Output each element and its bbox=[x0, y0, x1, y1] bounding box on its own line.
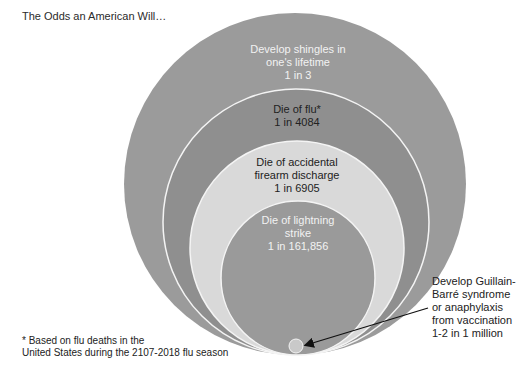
flu-odds: 1 in 4084 bbox=[273, 116, 321, 129]
firearm-label: Die of accidental firearm discharge 1 in… bbox=[255, 156, 340, 195]
shingles-label-line: Develop shingles in bbox=[250, 43, 345, 56]
shingles-label-line: one's lifetime bbox=[250, 56, 345, 69]
lightning-label: Die of lightning strike 1 in 161,856 bbox=[262, 214, 335, 253]
callout-line: from vaccination bbox=[432, 314, 516, 327]
firearm-odds: 1 in 6905 bbox=[255, 182, 340, 195]
shingles-label: Develop shingles in one's lifetime 1 in … bbox=[250, 43, 345, 82]
footnote: * Based on flu deaths in the United Stat… bbox=[22, 335, 228, 359]
flu-label: Die of flu* 1 in 4084 bbox=[273, 103, 321, 129]
vaccine-risk-circle bbox=[289, 339, 303, 353]
vaccine-callout: Develop Guillain- Barré syndrome or anap… bbox=[432, 275, 516, 340]
callout-line: or anaphylaxis bbox=[432, 301, 516, 314]
footnote-line: * Based on flu deaths in the bbox=[22, 335, 228, 347]
lightning-label-line: strike bbox=[262, 227, 335, 240]
firearm-label-line: firearm discharge bbox=[255, 169, 340, 182]
callout-odds: 1-2 in 1 million bbox=[432, 327, 516, 340]
flu-label-line: Die of flu* bbox=[273, 103, 321, 116]
lightning-odds: 1 in 161,856 bbox=[262, 240, 335, 253]
callout-line: Develop Guillain- bbox=[432, 275, 516, 288]
footnote-line: United States during the 2107-2018 flu s… bbox=[22, 347, 228, 359]
callout-line: Barré syndrome bbox=[432, 288, 516, 301]
lightning-label-line: Die of lightning bbox=[262, 214, 335, 227]
shingles-odds: 1 in 3 bbox=[250, 69, 345, 82]
firearm-label-line: Die of accidental bbox=[255, 156, 340, 169]
